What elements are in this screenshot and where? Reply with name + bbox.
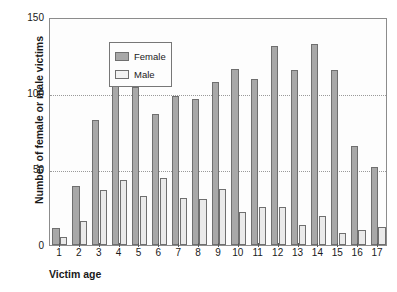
- bar-group: [92, 19, 107, 245]
- x-tick-mark: [317, 243, 318, 247]
- x-tick-label: 6: [148, 247, 168, 258]
- x-tick-mark: [119, 243, 120, 247]
- x-tick-mark: [298, 243, 299, 247]
- bar-group: [192, 19, 207, 245]
- bar-group: [291, 19, 306, 245]
- bar-female: [331, 70, 338, 245]
- x-tick-label: 7: [168, 247, 188, 258]
- bar-group: [331, 19, 346, 245]
- bar-female: [212, 82, 219, 245]
- bar-group: [172, 19, 187, 245]
- bar-female: [271, 46, 278, 245]
- bar-female: [311, 44, 318, 245]
- legend-label-male: Male: [134, 69, 155, 80]
- bar-male: [199, 199, 206, 245]
- x-tick-mark: [218, 243, 219, 247]
- x-tick-label: 12: [268, 247, 288, 258]
- plot-area: Female Male: [49, 18, 387, 246]
- bar-female: [132, 87, 139, 245]
- bar-male: [120, 180, 127, 245]
- x-tick-label: 15: [327, 247, 347, 258]
- x-tick-mark: [238, 243, 239, 247]
- bar-male: [239, 212, 246, 245]
- bar-group: [212, 19, 227, 245]
- legend-item-female: Female: [115, 50, 166, 63]
- bar-male: [140, 196, 147, 245]
- x-tick-label: 17: [367, 247, 387, 258]
- bar-male: [180, 198, 187, 245]
- bar-group: [311, 19, 326, 245]
- y-tick-label: 0: [18, 240, 44, 251]
- bar-male: [279, 207, 286, 245]
- x-tick-label: 16: [347, 247, 367, 258]
- legend-item-male: Male: [115, 68, 155, 81]
- x-tick-mark: [79, 243, 80, 247]
- bar-male: [60, 237, 67, 245]
- x-tick-label: 9: [208, 247, 228, 258]
- bar-group: [52, 19, 67, 245]
- bar-male: [319, 216, 326, 245]
- x-tick-mark: [357, 243, 358, 247]
- legend-label-female: Female: [134, 51, 166, 62]
- x-tick-label: 11: [248, 247, 268, 258]
- bar-male: [299, 225, 306, 245]
- x-tick-label: 1: [49, 247, 69, 258]
- bar-group: [371, 19, 386, 245]
- x-tick-mark: [158, 243, 159, 247]
- bar-female: [192, 99, 199, 245]
- bar-group: [72, 19, 87, 245]
- bar-male: [378, 227, 385, 245]
- bar-female: [251, 79, 258, 245]
- bar-male: [358, 230, 365, 245]
- bar-female: [351, 146, 358, 245]
- bar-male: [339, 233, 346, 245]
- bar-group: [231, 19, 246, 245]
- y-tick-label: 150: [18, 12, 44, 23]
- x-tick-label: 13: [288, 247, 308, 258]
- legend-swatch-male-icon: [115, 70, 129, 79]
- bar-female: [231, 69, 238, 245]
- bar-male: [80, 221, 87, 245]
- y-axis-tick-labels: 050100150: [18, 0, 44, 292]
- bar-male: [219, 189, 226, 245]
- y-tick-label: 100: [18, 88, 44, 99]
- x-tick-mark: [258, 243, 259, 247]
- x-tick-mark: [278, 243, 279, 247]
- x-tick-mark: [59, 243, 60, 247]
- x-tick-label: 10: [228, 247, 248, 258]
- bar-male: [100, 190, 107, 245]
- x-axis-tick-labels: 1234567891011121314151617: [49, 247, 387, 263]
- x-tick-label: 5: [128, 247, 148, 258]
- x-axis-title: Victim age: [49, 268, 209, 280]
- x-tick-mark: [178, 243, 179, 247]
- y-tick-label: 50: [18, 164, 44, 175]
- chart-figure: Number of female or male victims 0501001…: [0, 0, 397, 292]
- bar-female: [152, 114, 159, 245]
- bar-female: [112, 79, 119, 245]
- x-tick-label: 8: [188, 247, 208, 258]
- bar-male: [160, 178, 167, 245]
- x-tick-label: 4: [109, 247, 129, 258]
- bar-female: [371, 167, 378, 245]
- x-tick-label: 14: [307, 247, 327, 258]
- x-tick-mark: [138, 243, 139, 247]
- plot-inner: [50, 19, 386, 245]
- x-tick-mark: [337, 243, 338, 247]
- legend-swatch-female-icon: [115, 52, 129, 61]
- bar-group: [271, 19, 286, 245]
- bar-female: [291, 70, 298, 245]
- bar-group: [351, 19, 366, 245]
- x-tick-mark: [198, 243, 199, 247]
- bar-female: [92, 120, 99, 245]
- bar-male: [259, 207, 266, 245]
- x-tick-mark: [99, 243, 100, 247]
- bar-female: [172, 96, 179, 245]
- chart-legend: Female Male: [109, 42, 172, 87]
- bar-group: [251, 19, 266, 245]
- x-tick-label: 2: [69, 247, 89, 258]
- bar-female: [72, 186, 79, 245]
- x-tick-label: 3: [89, 247, 109, 258]
- x-tick-mark: [377, 243, 378, 247]
